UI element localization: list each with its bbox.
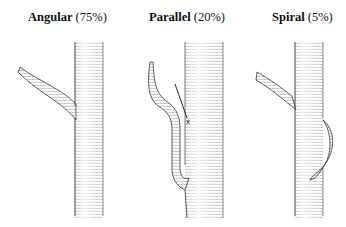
parallel-root-drawing: x [149,42,223,220]
root-illustrations: x [0,0,346,227]
spiral-root-drawing [256,42,333,218]
angular-root-drawing [18,42,103,218]
x-marker: x [186,117,190,126]
